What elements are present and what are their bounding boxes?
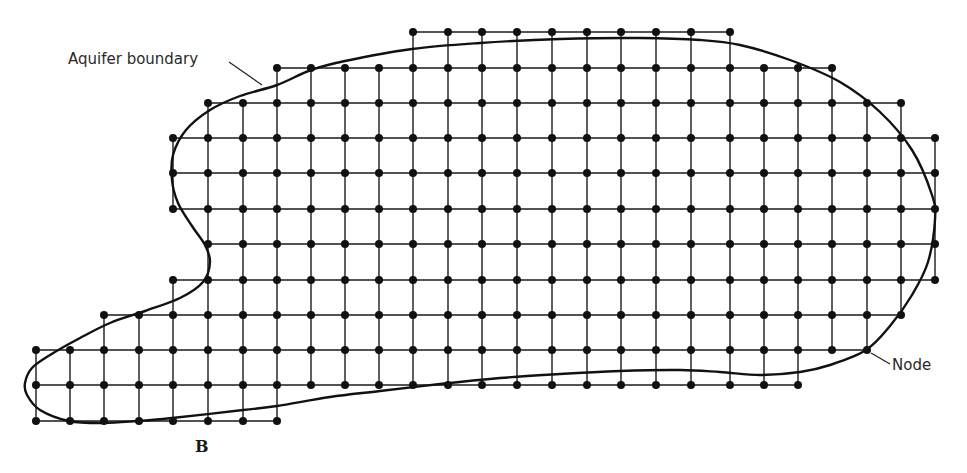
grid-node [794,276,802,284]
grid-node [204,99,212,107]
grid-node [897,240,905,248]
grid-node [204,381,212,389]
grid-node [444,311,452,319]
grid-node [828,346,836,354]
grid-node [273,346,281,354]
grid-node [794,134,802,142]
grid-node [617,276,625,284]
grid-node [478,134,486,142]
grid-node [583,346,591,354]
grid-node [548,381,556,389]
grid-node [548,346,556,354]
grid-node [307,346,315,354]
grid-node [307,205,315,213]
grid-node [687,134,695,142]
grid-node [478,276,486,284]
grid-node [341,276,349,284]
grid-node [169,311,177,319]
grid-node [444,134,452,142]
grid-node [828,99,836,107]
grid-node [409,276,417,284]
grid-node [444,169,452,177]
grid-node [863,169,871,177]
grid-node [652,134,660,142]
grid-node [307,134,315,142]
grid-node [583,99,591,107]
grid-node [444,346,452,354]
grid-node [375,346,383,354]
grid-node [617,311,625,319]
grid-node [375,240,383,248]
aquifer-boundary-curve [25,38,936,423]
grid-node [687,99,695,107]
grid-node [617,169,625,177]
grid-node [478,381,486,389]
aquifer-grid-diagram [0,0,967,473]
grid-node [341,134,349,142]
grid-node [726,381,734,389]
grid-node [169,134,177,142]
node-leader-line [871,353,890,364]
grid-node [409,28,417,36]
grid-node [687,240,695,248]
grid-node [169,205,177,213]
grid-node [863,311,871,319]
grid-node [863,205,871,213]
grid-node [617,134,625,142]
grid-node [513,205,521,213]
grid-columns [36,32,935,421]
grid-node [273,99,281,107]
grid-node [513,28,521,36]
grid-node [931,169,939,177]
node-label: Node [892,356,931,374]
grid-node [583,276,591,284]
grid-node [687,205,695,213]
grid-node [726,134,734,142]
grid-node [652,381,660,389]
grid-node [307,311,315,319]
grid-node [444,381,452,389]
grid-node [652,346,660,354]
grid-node [239,346,247,354]
grid-node [583,205,591,213]
grid-node [548,99,556,107]
grid-node [687,346,695,354]
grid-node [794,240,802,248]
grid-node [794,346,802,354]
grid-node [409,381,417,389]
grid-node [204,276,212,284]
grid-node [135,417,143,425]
grid-node [760,276,768,284]
grid-node [760,64,768,72]
grid-node [828,169,836,177]
grid-node [513,346,521,354]
grid-node [100,346,108,354]
grid-node [863,134,871,142]
grid-node [726,169,734,177]
grid-node [931,276,939,284]
grid-node [239,134,247,142]
grid-node [548,28,556,36]
grid-node [100,311,108,319]
grid-node [513,240,521,248]
grid-node [583,28,591,36]
grid-node [409,169,417,177]
grid-node [897,134,905,142]
grid-node [239,205,247,213]
grid-node [444,205,452,213]
grid-node [273,276,281,284]
grid-node [100,417,108,425]
grid-node [100,381,108,389]
grid-node [273,134,281,142]
grid-node [863,99,871,107]
grid-node [652,240,660,248]
grid-node [273,311,281,319]
grid-node [341,169,349,177]
grid-node [409,205,417,213]
grid-node [478,205,486,213]
grid-node [273,205,281,213]
grid-node [66,381,74,389]
grid-node [478,64,486,72]
grid-node [897,169,905,177]
grid-node [548,169,556,177]
